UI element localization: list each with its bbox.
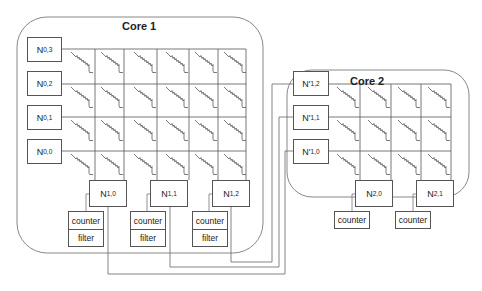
neuron-n21[interactable]: N2,1 [416,180,454,207]
node-subscript: 1,0 [107,190,116,197]
filter-module: filter [193,229,227,246]
core-1-title: Core 1 [122,20,156,32]
counter-n20: counter [334,211,370,229]
node-subscript: 0,3 [43,46,52,53]
node-subscript: 1,2 [311,80,320,87]
neuron-np10[interactable]: N'1,0 [293,139,329,164]
counter-module: counter [131,212,165,229]
neuron-n11[interactable]: N1,1 [150,180,188,207]
node-subscript: 1,1 [168,190,177,197]
counter-filter-n10: counter filter [68,211,104,247]
filter-module: filter [69,229,103,246]
neuron-np11[interactable]: N'1,1 [293,105,329,130]
neuron-n03[interactable]: N0,3 [27,37,62,62]
counter-module: counter [69,212,103,229]
node-subscript: 0,1 [43,114,52,121]
node-subscript: 2,1 [434,190,443,197]
counter-filter-n12: counter filter [192,211,228,247]
diagram-canvas [0,0,482,291]
core-1-crossbar [62,49,246,180]
route-n12-to-np12 [231,84,293,262]
neuron-n00[interactable]: N0,0 [27,139,62,164]
counter-module: counter [193,212,227,229]
neuron-n02[interactable]: N0,2 [27,71,62,96]
neuron-n20[interactable]: N2,0 [355,180,393,207]
counter-module: counter [335,212,369,228]
counter-filter-n11: counter filter [130,211,166,247]
node-label: N' [302,147,310,157]
filter-module: filter [131,229,165,246]
counter-n21: counter [395,211,431,229]
neuron-n12[interactable]: N1,2 [212,180,250,207]
neuron-n01[interactable]: N0,1 [27,105,62,130]
node-label: N' [302,113,310,123]
node-subscript: 1,2 [230,190,239,197]
node-subscript: 2,0 [373,190,382,197]
node-label: N' [302,79,310,89]
node-subscript: 1,0 [311,148,320,155]
node-subscript: 0,0 [43,148,52,155]
core-2-synapses [337,87,450,175]
core-1-synapses [71,52,246,175]
node-subscript: 1,1 [311,114,320,121]
node-subscript: 0,2 [43,80,52,87]
neuron-n10[interactable]: N1,0 [89,180,127,207]
counter-module: counter [396,212,430,228]
neuron-np12[interactable]: N'1,2 [293,71,329,96]
core-2-title: Core 2 [350,75,384,87]
core-2-crossbar [328,84,451,180]
